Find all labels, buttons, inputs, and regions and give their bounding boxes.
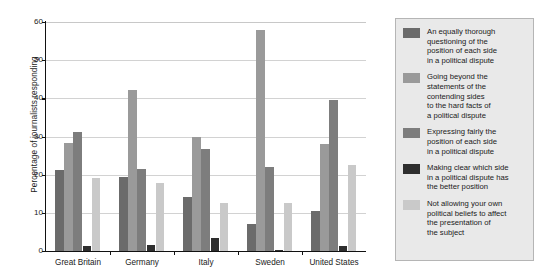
bar: [339, 246, 348, 251]
legend-swatch-icon: [403, 73, 420, 83]
x-axis-label-italy: Italy: [174, 258, 238, 267]
bar: [275, 250, 284, 251]
bar: [128, 90, 137, 251]
x-axis-tick: [174, 251, 175, 255]
bar: [156, 183, 165, 251]
bar: [73, 132, 82, 251]
legend-item: Making clear which side in a political d…: [403, 163, 527, 192]
bar: [183, 197, 192, 251]
bar: [192, 137, 201, 252]
plot-area: 0102030405060: [46, 22, 366, 251]
bar: [92, 178, 101, 251]
bar: [147, 245, 156, 251]
bar: [220, 203, 229, 251]
legend-swatch-icon: [403, 128, 420, 138]
y-tick-label: 60: [34, 17, 43, 26]
y-tick-label: 10: [34, 208, 43, 217]
bar: [55, 170, 64, 251]
bar: [348, 165, 357, 251]
bar: [329, 100, 338, 251]
legend-label: Expressing fairly the position of each s…: [427, 127, 497, 156]
y-tick-label: 50: [34, 55, 43, 64]
bar-group: [183, 22, 229, 251]
x-axis-tick: [302, 251, 303, 255]
x-axis-tick: [238, 251, 239, 255]
x-axis-label-sweden: Sweden: [238, 258, 302, 267]
bar: [83, 246, 92, 251]
legend-label: Going beyond the statements of the conte…: [427, 72, 491, 120]
bar-group: [311, 22, 357, 251]
bar: [265, 167, 274, 251]
legend-swatch-icon: [403, 28, 420, 38]
y-tick-label: 30: [34, 132, 43, 141]
legend-label: Making clear which side in a political d…: [427, 163, 509, 192]
y-tick-label: 40: [34, 93, 43, 102]
bar: [247, 224, 256, 251]
legend-swatch-icon: [403, 164, 420, 174]
bar-group: [119, 22, 165, 251]
bar-group: [55, 22, 101, 251]
x-axis-label-germany: Germany: [110, 258, 174, 267]
y-axis-title: Percentage of journalists responding: [30, 15, 39, 235]
bar: [137, 169, 146, 251]
legend-item: An equally thorough questioning of the p…: [403, 27, 527, 65]
bar: [201, 149, 210, 251]
bar: [311, 211, 320, 251]
legend-item: Not allowing your own political beliefs …: [403, 199, 527, 237]
bar: [256, 30, 265, 251]
y-tick-label: 20: [34, 170, 43, 179]
bar-group: [247, 22, 293, 251]
legend-item: Going beyond the statements of the conte…: [403, 72, 527, 120]
bar: [119, 177, 128, 251]
x-axis-label-great-britain: Great Britain: [46, 258, 110, 267]
bar-chart: Percentage of journalists responding 010…: [0, 0, 543, 279]
x-axis-label-united-states: United States: [302, 258, 366, 267]
y-tick-label: 0: [39, 246, 43, 255]
bar: [211, 238, 220, 251]
chart-legend: An equally thorough questioning of the p…: [395, 18, 534, 261]
legend-item: Expressing fairly the position of each s…: [403, 127, 527, 156]
x-axis-tick: [110, 251, 111, 255]
bar: [320, 144, 329, 251]
legend-swatch-icon: [403, 200, 420, 210]
legend-label: An equally thorough questioning of the p…: [427, 27, 497, 65]
bar: [64, 143, 73, 251]
bar: [284, 203, 293, 251]
legend-label: Not allowing your own political beliefs …: [427, 199, 506, 237]
